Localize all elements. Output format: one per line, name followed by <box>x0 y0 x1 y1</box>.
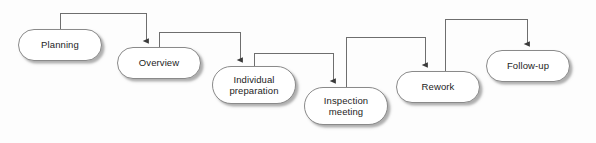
flow-diagram: PlanningOverviewIndividual preparationIn… <box>0 0 596 143</box>
node-label-followup: Follow-up <box>503 60 553 72</box>
node-individual[interactable]: Individual preparation <box>212 66 296 104</box>
node-label-planning: Planning <box>37 39 83 51</box>
node-label-overview: Overview <box>135 57 183 69</box>
node-planning[interactable]: Planning <box>18 29 102 61</box>
node-label-inspection: Inspection meeting <box>320 95 372 118</box>
node-rework[interactable]: Rework <box>396 71 480 103</box>
node-inspection[interactable]: Inspection meeting <box>304 87 388 125</box>
node-overview[interactable]: Overview <box>117 47 201 79</box>
node-followup[interactable]: Follow-up <box>486 50 570 82</box>
node-label-individual: Individual preparation <box>225 74 282 97</box>
node-label-rework: Rework <box>418 81 459 93</box>
